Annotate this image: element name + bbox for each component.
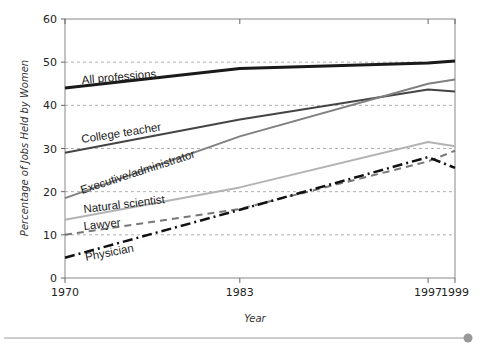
x-tick-label: 1983	[226, 286, 254, 299]
series-labels: All professionsCollege teacherExecutive/…	[79, 67, 197, 262]
y-axis-ticks: 0102030405060	[43, 13, 65, 285]
y-tick-label: 10	[43, 229, 57, 242]
x-tick-label: 1970	[51, 286, 79, 299]
y-tick-label: 50	[43, 56, 57, 69]
series-line-college-teacher	[65, 89, 455, 152]
line-chart: 0102030405060 1970198319971999 All profe…	[0, 0, 486, 351]
y-tick-label: 30	[43, 143, 57, 156]
x-axis-title: Year	[244, 313, 266, 324]
y-tick-label: 40	[43, 99, 57, 112]
series-label: Executive/administrator	[79, 148, 197, 196]
footer-dot-icon	[464, 334, 473, 343]
series-label: Natural scientist	[83, 193, 166, 215]
y-tick-label: 60	[43, 13, 57, 26]
y-tick-label: 20	[43, 186, 57, 199]
series-line-lawyer	[65, 151, 455, 235]
x-tick-label: 1999	[441, 286, 469, 299]
y-tick-label: 0	[50, 272, 57, 285]
x-tick-label: 1997	[414, 286, 442, 299]
series-label: Lawyer	[83, 216, 121, 232]
series-lines	[65, 61, 455, 258]
y-axis-title: Percentage of Jobs Held by Women	[19, 60, 30, 236]
